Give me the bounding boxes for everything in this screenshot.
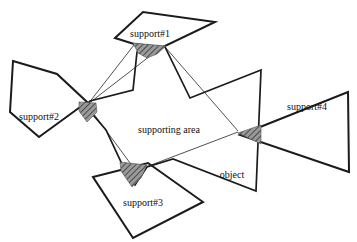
supporting-area-label: supporting area — [138, 124, 200, 135]
contact-patch-2 — [79, 102, 97, 122]
object-label: object — [220, 169, 245, 180]
supporting-area-lines — [88, 45, 238, 170]
support-2-label: support#2 — [19, 111, 59, 122]
contact-patch-1 — [133, 43, 166, 58]
diagram-svg: support#1support#2support#3support#4supp… — [0, 0, 357, 242]
supporting-area-line-support2-to-support1-tip — [88, 56, 150, 104]
supporting-area-line-support1-to-support4 — [166, 48, 238, 131]
support-3-label: support#3 — [123, 197, 163, 208]
support-2-polygon — [10, 61, 87, 137]
support-4-label: support#4 — [287, 101, 327, 112]
contact-patch-4 — [238, 125, 261, 144]
contact-patches — [79, 43, 261, 187]
supporting-area-line-support3-to-support2 — [88, 106, 133, 167]
figure-container: support#1support#2support#3support#4supp… — [0, 0, 357, 242]
support-1-label: support#1 — [130, 28, 170, 39]
